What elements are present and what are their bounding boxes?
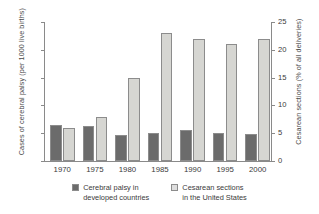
- bar-cerebral-palsy: [245, 134, 257, 161]
- legend-swatch-icon: [72, 184, 79, 191]
- x-axis-tick-label: 1970: [46, 166, 78, 174]
- y-axis-left-title: Cases of cerebral palsy (per 1000 live b…: [18, 8, 25, 156]
- y-axis-left-tick: [41, 161, 44, 162]
- legend-label: Cesarean sectionsin the United States: [182, 183, 247, 202]
- bar-cesarean-sections: [258, 39, 270, 161]
- legend-label: Cerebral palsy indeveloped countries: [83, 183, 149, 202]
- y-axis-right-tick: [272, 22, 275, 23]
- legend-item: Cerebral palsy indeveloped countries: [72, 183, 149, 202]
- y-axis-right-tick: [272, 133, 275, 134]
- bar-cerebral-palsy: [50, 125, 62, 161]
- legend-item: Cesarean sectionsin the United States: [171, 183, 247, 202]
- bar-cesarean-sections: [96, 117, 108, 161]
- legend-label-line2: in the United States: [182, 193, 247, 203]
- y-axis-right-tick: [272, 161, 275, 162]
- bar-cesarean-sections: [63, 128, 75, 161]
- x-axis-tick-label: 1975: [79, 166, 111, 174]
- bar-group: [50, 22, 75, 161]
- bar-cesarean-sections: [128, 78, 140, 161]
- x-axis-line: [44, 161, 272, 162]
- y-axis-right-tick-label: 10: [278, 101, 308, 109]
- plot-area: 0246810 0510152025 197019751980198519901…: [44, 22, 272, 162]
- y-axis-right-tick: [272, 50, 275, 51]
- x-axis-tick-label: 1995: [209, 166, 241, 174]
- bar-group: [213, 22, 238, 161]
- legend-swatch-icon: [171, 184, 178, 191]
- bar-group: [245, 22, 270, 161]
- legend-label-line1: Cerebral palsy in: [83, 183, 149, 193]
- bar-cerebral-palsy: [180, 130, 192, 161]
- bar-cerebral-palsy: [148, 133, 160, 161]
- y-axis-right-tick-label: 20: [278, 46, 308, 54]
- bar-cesarean-sections: [193, 39, 205, 161]
- y-axis-right-tick-label: 15: [278, 74, 308, 82]
- bar-cerebral-palsy: [213, 133, 225, 161]
- chart-figure: Cases of cerebral palsy (per 1000 live b…: [0, 0, 319, 214]
- y-axis-right-tick-label: 25: [278, 18, 308, 26]
- legend-label-line2: developed countries: [83, 193, 149, 203]
- x-axis-tick-label: 1985: [144, 166, 176, 174]
- bar-group: [148, 22, 173, 161]
- y-axis-right-tick: [272, 105, 275, 106]
- legend-label-line1: Cesarean sections: [182, 183, 247, 193]
- bar-cerebral-palsy: [115, 135, 127, 161]
- bar-cesarean-sections: [226, 44, 238, 161]
- y-axis-right-tick-label: 0: [278, 157, 308, 165]
- x-axis-tick-label: 1980: [111, 166, 143, 174]
- bar-cesarean-sections: [161, 33, 173, 161]
- y-axis-right-tick: [272, 78, 275, 79]
- bar-cerebral-palsy: [83, 126, 95, 161]
- chart-legend: Cerebral palsy indeveloped countriesCesa…: [0, 183, 319, 202]
- bar-group: [115, 22, 140, 161]
- x-axis-tick-label: 2000: [242, 166, 274, 174]
- y-axis-right-tick-label: 5: [278, 129, 308, 137]
- bar-group: [83, 22, 108, 161]
- x-axis-tick-label: 1990: [177, 166, 209, 174]
- bar-group: [180, 22, 205, 161]
- bar-series-group: [44, 22, 272, 161]
